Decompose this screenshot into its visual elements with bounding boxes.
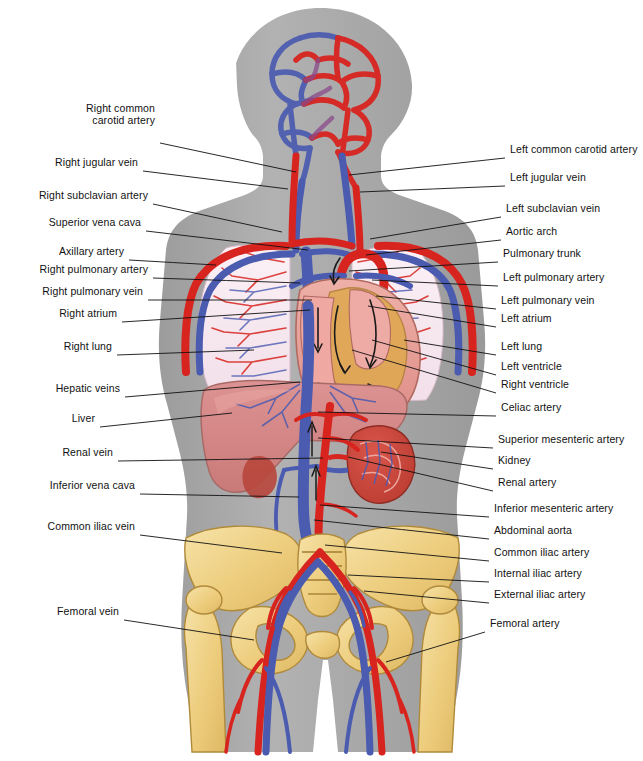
label-inferior-vena-cava: Inferior vena cava bbox=[0, 480, 135, 492]
label-text-line: Left pulmonary vein bbox=[501, 295, 595, 307]
label-right-atrium: Right atrium bbox=[0, 308, 117, 320]
label-right-lung: Right lung bbox=[0, 341, 112, 353]
label-liver: Liver bbox=[0, 413, 95, 425]
label-text-line: Kidney bbox=[498, 455, 531, 467]
label-text-line: Common iliac artery bbox=[494, 547, 589, 559]
label-left-common-carotid-artery: Left common carotid artery bbox=[510, 144, 637, 156]
label-common-iliac-vein: Common iliac vein bbox=[0, 521, 135, 533]
label-kidney: Kidney bbox=[498, 455, 531, 467]
label-text-line: Celiac artery bbox=[501, 402, 561, 414]
label-text-line: Right lung bbox=[0, 341, 112, 353]
label-text-line: Right pulmonary vein bbox=[0, 286, 143, 298]
label-axillary-artery: Axillary artery bbox=[0, 246, 124, 258]
label-text-line: Axillary artery bbox=[0, 246, 124, 258]
label-text-line: Right subclavian artery bbox=[0, 190, 148, 202]
label-text-line: Liver bbox=[0, 413, 95, 425]
label-text-line: Left jugular vein bbox=[510, 172, 586, 184]
label-left-subclavian-vein: Left subclavian vein bbox=[506, 203, 600, 215]
label-superior-mesenteric-artery: Superior mesenteric artery bbox=[498, 434, 624, 446]
label-inferior-mesenteric-artery: Inferior mesenteric artery bbox=[494, 503, 613, 515]
label-right-pulmonary-artery: Right pulmonary artery bbox=[0, 264, 148, 276]
label-text-line: Left pulmonary artery bbox=[503, 272, 604, 284]
label-celiac-artery: Celiac artery bbox=[501, 402, 561, 414]
label-text-line: Renal vein bbox=[0, 447, 113, 459]
label-aortic-arch: Aortic arch bbox=[506, 226, 557, 238]
label-internal-iliac-artery: Internal iliac artery bbox=[494, 568, 582, 580]
label-text-line: Abdominal aorta bbox=[494, 525, 572, 537]
label-text-line: Femoral vein bbox=[0, 606, 119, 618]
label-text-line: Left atrium bbox=[501, 313, 552, 325]
label-text-line: Superior mesenteric artery bbox=[498, 434, 624, 446]
label-text-line: Inferior vena cava bbox=[0, 480, 135, 492]
label-text-line: Renal artery bbox=[498, 477, 556, 489]
label-text-line: Right common bbox=[0, 103, 155, 115]
label-external-iliac-artery: External iliac artery bbox=[494, 589, 585, 601]
label-abdominal-aorta: Abdominal aorta bbox=[494, 525, 572, 537]
label-right-ventricle: Right ventricle bbox=[501, 379, 569, 391]
label-text-line: Left lung bbox=[501, 341, 542, 353]
label-text-line: Right ventricle bbox=[501, 379, 569, 391]
label-text-line: Common iliac vein bbox=[0, 521, 135, 533]
label-text-line: External iliac artery bbox=[494, 589, 585, 601]
label-text-line: Internal iliac artery bbox=[494, 568, 582, 580]
label-text-line: Left common carotid artery bbox=[510, 144, 637, 156]
label-right-subclavian-artery: Right subclavian artery bbox=[0, 190, 148, 202]
label-text-line: carotid artery bbox=[0, 115, 155, 127]
label-text-line: Hepatic veins bbox=[0, 383, 120, 395]
label-left-ventricle: Left ventricle bbox=[501, 361, 562, 373]
label-femoral-artery: Femoral artery bbox=[490, 618, 560, 630]
label-text-line: Pulmonary trunk bbox=[503, 248, 581, 260]
label-text-line: Right jugular vein bbox=[0, 157, 138, 169]
label-left-lung: Left lung bbox=[501, 341, 542, 353]
label-text-line: Inferior mesenteric artery bbox=[494, 503, 613, 515]
label-superior-vena-cava: Superior vena cava bbox=[0, 217, 141, 229]
label-left-pulmonary-artery: Left pulmonary artery bbox=[503, 272, 604, 284]
anatomy-diagram: Right commoncarotid arteryRight jugular … bbox=[0, 0, 643, 761]
label-text-line: Left subclavian vein bbox=[506, 203, 600, 215]
label-left-pulmonary-vein: Left pulmonary vein bbox=[501, 295, 595, 307]
label-left-jugular-vein: Left jugular vein bbox=[510, 172, 586, 184]
label-femoral-vein: Femoral vein bbox=[0, 606, 119, 618]
label-text-line: Superior vena cava bbox=[0, 217, 141, 229]
label-renal-vein: Renal vein bbox=[0, 447, 113, 459]
label-renal-artery: Renal artery bbox=[498, 477, 556, 489]
label-text-line: Aortic arch bbox=[506, 226, 557, 238]
label-text-line: Left ventricle bbox=[501, 361, 562, 373]
label-text-line: Right atrium bbox=[0, 308, 117, 320]
label-right-pulmonary-vein: Right pulmonary vein bbox=[0, 286, 143, 298]
label-pulmonary-trunk: Pulmonary trunk bbox=[503, 248, 581, 260]
label-common-iliac-artery: Common iliac artery bbox=[494, 547, 589, 559]
label-text-line: Right pulmonary artery bbox=[0, 264, 148, 276]
label-left-atrium: Left atrium bbox=[501, 313, 552, 325]
label-right-jugular-vein: Right jugular vein bbox=[0, 157, 138, 169]
label-hepatic-veins: Hepatic veins bbox=[0, 383, 120, 395]
label-right-common-carotid-artery: Right commoncarotid artery bbox=[0, 103, 155, 126]
label-text-line: Femoral artery bbox=[490, 618, 560, 630]
